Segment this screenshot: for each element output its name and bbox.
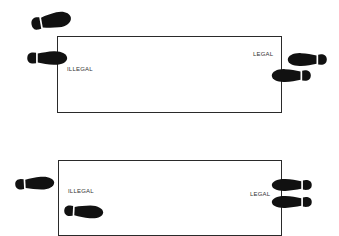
footprint-icon <box>287 52 328 67</box>
court-box-bottom <box>58 160 282 236</box>
footprint-icon <box>63 203 105 220</box>
footprint-icon <box>271 178 313 192</box>
illegal-label-top: ILLEGAL <box>67 66 93 72</box>
footprint-icon <box>271 195 313 209</box>
footprint-icon <box>271 68 312 83</box>
court-box-top <box>57 36 282 113</box>
footprint-icon <box>14 175 56 192</box>
legal-label-bottom: LEGAL <box>250 191 270 197</box>
footprint-icon <box>26 50 68 66</box>
footprint-icon <box>29 8 73 33</box>
illegal-label-bottom: ILLEGAL <box>68 188 94 194</box>
legal-label-top: LEGAL <box>253 51 273 57</box>
